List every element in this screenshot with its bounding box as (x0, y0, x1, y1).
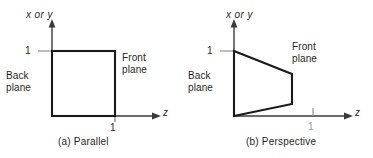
panel-parallel: x or y 1 Back plane Front plane z 1 (a) … (0, 0, 186, 158)
view-volume-square (52, 51, 115, 116)
horizontal-axis-label: z (163, 107, 168, 119)
front-plane-label: Front plane (292, 41, 317, 65)
panel-perspective: x or y 1 Back plane Front plane z 1 (b) … (186, 0, 373, 158)
horizontal-axis (234, 112, 353, 119)
perspective-projection-drawing (186, 0, 373, 158)
back-plane-label: Back plane (188, 70, 213, 94)
panel-caption: (b) Perspective (246, 136, 316, 148)
horizontal-axis-tick-label: 1 (110, 122, 116, 134)
view-volume-trapezoid (234, 51, 292, 116)
vertical-axis-tick-label: 1 (207, 45, 213, 57)
projection-view-volumes-figure: x or y 1 Back plane Front plane z 1 (a) … (0, 0, 373, 158)
panel-caption: (a) Parallel (58, 136, 109, 148)
vertical-axis-label: x or y (26, 9, 53, 21)
horizontal-axis-label: z (355, 107, 360, 119)
back-plane-label: Back plane (6, 70, 31, 94)
front-plane-label: Front plane (122, 52, 147, 76)
horizontal-axis-tick-label: 1 (308, 121, 314, 133)
vertical-axis-tick-label: 1 (25, 45, 31, 57)
vertical-axis-label: x or y (226, 9, 253, 21)
